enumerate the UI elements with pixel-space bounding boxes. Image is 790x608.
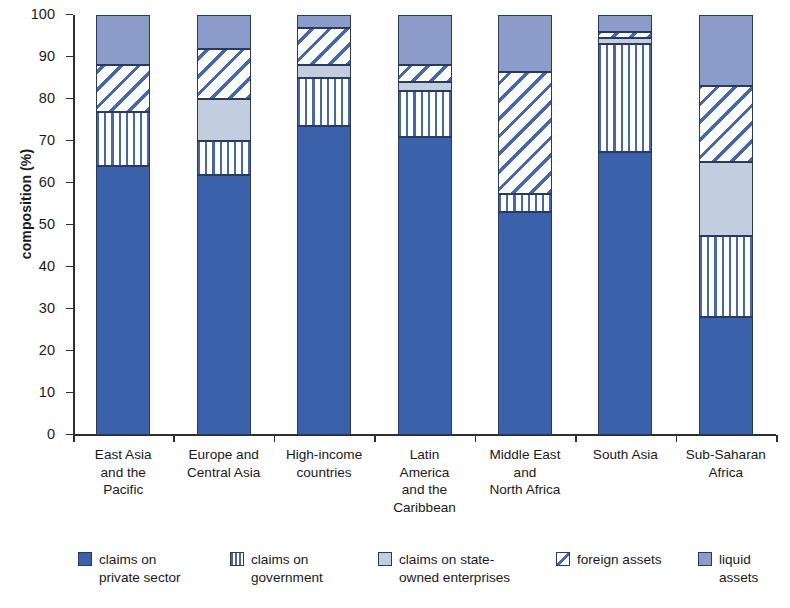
bar-segment-private[interactable] xyxy=(398,137,452,435)
legend-item-foreign[interactable]: foreign assets xyxy=(556,551,662,569)
x-axis-category-label: High-incomecountries xyxy=(266,446,382,481)
bar-segment-government[interactable] xyxy=(498,194,552,213)
stacked-bar[interactable] xyxy=(498,15,552,435)
bar-segment-liquid[interactable] xyxy=(197,15,251,49)
y-axis-tick: 40 xyxy=(66,266,73,268)
legend-swatch-private-icon xyxy=(78,552,92,566)
legend-item-soe[interactable]: claims on state-owned enterprises xyxy=(378,551,510,586)
bar-segment-private[interactable] xyxy=(297,126,351,435)
y-axis-tick-label: 20 xyxy=(39,342,55,358)
x-axis-tick xyxy=(274,435,276,442)
stacked-bar[interactable] xyxy=(96,15,150,435)
x-axis-tick xyxy=(676,435,678,442)
y-axis-tick-label: 100 xyxy=(31,6,55,22)
bar-segment-private[interactable] xyxy=(96,166,150,435)
legend-label: liquid assets xyxy=(719,551,778,586)
legend-item-liquid[interactable]: liquid assets xyxy=(698,551,778,586)
bar-segment-liquid[interactable] xyxy=(699,15,753,86)
bar-segment-liquid[interactable] xyxy=(598,15,652,32)
y-axis-tick: 30 xyxy=(66,308,73,310)
x-axis-tick xyxy=(475,435,477,442)
plot-area: 0102030405060708090100 xyxy=(73,15,776,435)
bar-segment-foreign[interactable] xyxy=(699,86,753,162)
legend-swatch-soe-icon xyxy=(378,552,392,566)
x-axis-category-label: Sub-SaharanAfrica xyxy=(668,446,784,481)
y-axis-tick: 20 xyxy=(66,350,73,352)
bar-segment-soe[interactable] xyxy=(398,82,452,90)
y-axis-tick: 50 xyxy=(66,224,73,226)
y-axis-tick-label: 90 xyxy=(39,48,55,64)
x-axis-category-label: South Asia xyxy=(567,446,683,464)
bar-segment-liquid[interactable] xyxy=(96,15,150,65)
y-axis-tick: 90 xyxy=(66,56,73,58)
bar-segment-government[interactable] xyxy=(398,91,452,137)
bar-segment-private[interactable] xyxy=(699,317,753,435)
y-axis-tick: 0 xyxy=(66,434,73,436)
bar-segment-foreign[interactable] xyxy=(398,65,452,82)
y-axis-tick-label: 70 xyxy=(39,132,55,148)
bar-segment-foreign[interactable] xyxy=(498,72,552,194)
bar-segment-private[interactable] xyxy=(498,212,552,435)
bar-segment-private[interactable] xyxy=(197,175,251,435)
x-axis-category-label: Europe andCentral Asia xyxy=(166,446,282,481)
y-axis-tick-label: 30 xyxy=(39,300,55,316)
bar-segment-foreign[interactable] xyxy=(96,65,150,111)
bar-segment-liquid[interactable] xyxy=(498,15,552,72)
legend-label: claims ongovernment xyxy=(251,551,323,586)
x-axis-tick xyxy=(776,435,778,442)
bar-segment-soe[interactable] xyxy=(197,99,251,141)
bar-segment-foreign[interactable] xyxy=(598,32,652,38)
y-axis-line xyxy=(73,15,75,435)
legend-swatch-government-icon xyxy=(230,552,244,566)
y-axis-tick-label: 10 xyxy=(39,384,55,400)
legend-label: claims onprivate sector xyxy=(99,551,181,586)
x-axis-tick xyxy=(73,435,75,442)
y-axis-tick: 70 xyxy=(66,140,73,142)
bar-segment-liquid[interactable] xyxy=(398,15,452,65)
legend-swatch-foreign-icon xyxy=(556,552,570,566)
bar-segment-soe[interactable] xyxy=(297,65,351,78)
stacked-bar[interactable] xyxy=(398,15,452,435)
x-axis-tick xyxy=(374,435,376,442)
legend-item-government[interactable]: claims ongovernment xyxy=(230,551,323,586)
bar-segment-private[interactable] xyxy=(598,152,652,436)
x-axis-category-label: LatinAmericaand theCaribbean xyxy=(367,446,483,516)
legend-label: foreign assets xyxy=(577,551,662,569)
stacked-bar-chart: composition (%) 0102030405060708090100 c… xyxy=(0,0,790,608)
y-axis-tick-label: 50 xyxy=(39,216,55,232)
legend-item-private[interactable]: claims onprivate sector xyxy=(78,551,181,586)
y-axis-title: composition (%) xyxy=(18,84,34,324)
bar-segment-government[interactable] xyxy=(197,141,251,175)
stacked-bar[interactable] xyxy=(598,15,652,435)
y-axis-tick-label: 0 xyxy=(47,426,55,442)
x-axis-tick xyxy=(173,435,175,442)
bar-segment-soe[interactable] xyxy=(598,38,652,44)
bar-segment-government[interactable] xyxy=(96,112,150,167)
stacked-bar[interactable] xyxy=(699,15,753,435)
x-axis-tick xyxy=(575,435,577,442)
bar-segment-government[interactable] xyxy=(699,236,753,318)
legend-swatch-liquid-icon xyxy=(698,552,712,566)
x-axis-category-label: East Asiaand thePacific xyxy=(65,446,181,499)
y-axis-tick: 60 xyxy=(66,182,73,184)
bar-segment-soe[interactable] xyxy=(699,162,753,236)
bar-segment-government[interactable] xyxy=(598,44,652,151)
stacked-bar[interactable] xyxy=(197,15,251,435)
legend-label: claims on state-owned enterprises xyxy=(399,551,510,586)
y-axis-tick: 10 xyxy=(66,392,73,394)
y-axis-tick-label: 60 xyxy=(39,174,55,190)
bar-segment-liquid[interactable] xyxy=(297,15,351,28)
y-axis-tick: 80 xyxy=(66,98,73,100)
x-axis-category-label: Middle EastandNorth Africa xyxy=(467,446,583,499)
y-axis-tick-label: 40 xyxy=(39,258,55,274)
bar-segment-foreign[interactable] xyxy=(197,49,251,99)
stacked-bar[interactable] xyxy=(297,15,351,435)
bar-segment-foreign[interactable] xyxy=(297,28,351,66)
y-axis-tick: 100 xyxy=(66,14,73,16)
bar-segment-government[interactable] xyxy=(297,78,351,126)
y-axis-tick-label: 80 xyxy=(39,90,55,106)
